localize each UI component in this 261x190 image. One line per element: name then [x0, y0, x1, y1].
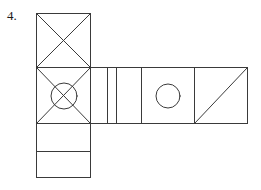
- right-panel-circle: [156, 84, 180, 108]
- panel-square-with-circle: [142, 68, 195, 124]
- panel-narrow-strip-right: [108, 68, 117, 124]
- right-square-diagonal-line: [195, 68, 248, 124]
- figure-canvas: 4.: [0, 0, 261, 190]
- panel-lower-rectangle-upper: [37, 124, 91, 152]
- panel-narrow-strip-left: [91, 68, 108, 124]
- panel-lower-rectangle-bottom: [37, 152, 91, 178]
- net-diagram: [0, 0, 261, 190]
- panel-wide-strip: [117, 68, 142, 124]
